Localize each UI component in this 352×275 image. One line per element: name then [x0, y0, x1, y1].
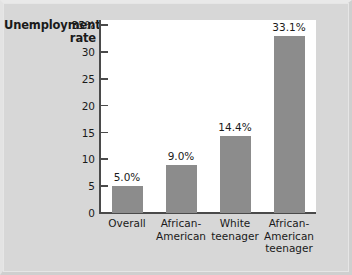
y-axis-tick: 10 — [52, 153, 108, 165]
bar-chart-figure: Unemployment rate 35%302520151050 5.0%9.… — [0, 0, 352, 275]
y-axis-tick-mark — [100, 132, 108, 134]
x-axis-category-label: Overall — [100, 217, 154, 230]
y-axis-tick: 5 — [52, 180, 108, 192]
x-axis-category-line: teenager — [208, 230, 262, 243]
y-axis-tick-label: 35% — [51, 19, 95, 31]
x-axis-category-label: African-Americanteenager — [262, 217, 316, 255]
y-axis-tick-mark — [100, 78, 108, 80]
chart-title-line-2: rate — [4, 32, 96, 45]
y-axis-tick-mark — [100, 158, 108, 160]
bar[interactable] — [166, 165, 197, 213]
y-axis-tick-label: 15 — [51, 127, 95, 139]
y-axis-tick-label: 10 — [51, 153, 95, 165]
bar-value-label: 5.0% — [114, 171, 141, 183]
x-axis-category-label: African-American — [154, 217, 208, 242]
x-axis-category-line: Overall — [100, 217, 154, 230]
bar[interactable] — [112, 186, 143, 213]
y-axis-tick-label: 20 — [51, 100, 95, 112]
y-axis-tick: 15 — [52, 127, 108, 139]
y-axis-tick-mark — [100, 105, 108, 107]
y-axis-tick-mark — [100, 51, 108, 53]
y-axis-tick: 20 — [52, 100, 108, 112]
y-axis-tick-label: 5 — [51, 180, 95, 192]
bar[interactable] — [274, 36, 305, 213]
bar-slot — [274, 20, 305, 213]
bar-value-label: 9.0% — [168, 150, 195, 162]
y-axis-tick-mark — [100, 185, 108, 187]
bar-slot — [220, 20, 251, 213]
y-axis-tick: 25 — [52, 73, 108, 85]
bar-value-label: 33.1% — [272, 21, 305, 33]
x-axis-category-line: White — [208, 217, 262, 230]
x-axis-category-label: Whiteteenager — [208, 217, 262, 242]
bar-slot — [166, 20, 197, 213]
x-axis-category-line: African- — [262, 217, 316, 230]
bar-slot — [112, 20, 143, 213]
y-axis-tick: 35% — [52, 19, 108, 31]
bar[interactable] — [220, 136, 251, 213]
bar-value-label: 14.4% — [218, 121, 251, 133]
y-axis-tick: 30 — [52, 46, 108, 58]
x-axis-category-line: African- — [154, 217, 208, 230]
x-axis-category-line: teenager — [262, 242, 316, 255]
y-axis-tick-label: 25 — [51, 73, 95, 85]
y-axis-tick-label: 30 — [51, 46, 95, 58]
x-axis-category-line: American — [262, 230, 316, 243]
y-axis-tick-label: 0 — [51, 207, 95, 219]
x-axis-category-line: American — [154, 230, 208, 243]
y-axis-tick-mark — [100, 24, 108, 26]
y-axis-tick-mark — [100, 212, 108, 214]
